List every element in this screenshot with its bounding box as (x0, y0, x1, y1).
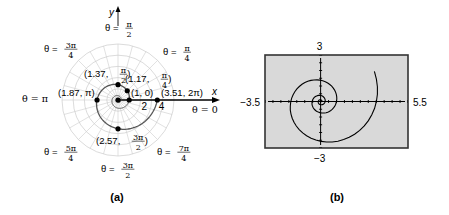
r-tick-label: 4 (159, 101, 165, 112)
data-point (127, 97, 132, 102)
point-label-prefix: (2.57, (96, 135, 120, 146)
x-axis-arrow (212, 97, 220, 103)
r-tick-label: 2 (141, 101, 147, 112)
angle-label-denominator: 4 (185, 54, 190, 63)
angle-label-prefix: θ = (44, 146, 58, 157)
data-point (94, 97, 99, 102)
angle-label: θ = 5π4 (44, 144, 77, 163)
angle-label: θ = 7π4 (157, 144, 190, 163)
angle-label: θ = 3π2 (101, 161, 134, 180)
angle-label-prefix: θ = (163, 46, 177, 57)
polar-grid-ray (70, 100, 118, 128)
caption-a: (a) (110, 191, 124, 203)
data-point (115, 126, 120, 131)
origin-point (115, 97, 120, 102)
point-label-suffix: ) (145, 135, 148, 146)
data-point (125, 88, 130, 93)
point-label: (1.87, π) (58, 87, 95, 98)
angle-label-numerator: π (185, 44, 190, 53)
y-axis-label: y (108, 7, 115, 18)
angle-label: θ = π2 (105, 20, 133, 39)
angle-label-prefix: θ = (105, 22, 119, 33)
angle-label: θ = π4 (163, 44, 191, 63)
point-label-suffix: ) (127, 68, 130, 79)
xmin-label: −3.5 (240, 97, 260, 108)
point-label-prefix: (1.37, (84, 68, 108, 79)
point-label-numerator: π (121, 66, 126, 75)
point-label: (3.51, 2π) (161, 87, 203, 98)
xmax-label: 5.5 (413, 97, 427, 108)
angle-label-denominator: 4 (68, 154, 73, 163)
polar-graph-panel: xy24(1, 0)(1.17, π4)(1.37, π2)(1.87, π)(… (22, 6, 220, 180)
angle-label-prefix: θ = (101, 163, 115, 174)
ymin-label: −3 (314, 153, 326, 164)
angle-label-numerator: 3π (66, 41, 76, 50)
angle-label-numerator: 7π (179, 144, 189, 153)
point-label-denominator: 2 (136, 143, 141, 152)
calculator-graph-panel: 3−3−3.55.5 (240, 41, 427, 164)
ymax-label: 3 (317, 41, 323, 52)
angle-label-denominator: 2 (125, 171, 130, 180)
point-label-numerator: 3π (133, 133, 143, 142)
angle-label-numerator: 5π (66, 144, 76, 153)
point-label: (1, 0) (131, 87, 153, 98)
point-label-denominator: 2 (121, 76, 126, 85)
y-axis-arrow (116, 6, 121, 12)
figure: xy24(1, 0)(1.17, π4)(1.37, π2)(1.87, π)(… (0, 0, 449, 215)
angle-label-denominator: 4 (181, 154, 186, 163)
angle-label: θ = 0 (192, 104, 218, 115)
angle-label-denominator: 4 (68, 51, 73, 60)
data-point (115, 82, 120, 87)
point-label-numerator: π (162, 71, 167, 80)
angle-label-numerator: 3π (123, 161, 133, 170)
point-label-suffix: ) (168, 73, 171, 84)
angle-label: θ = 3π4 (44, 41, 77, 60)
x-axis-label: x (211, 86, 218, 97)
angle-label: θ = π (22, 93, 48, 104)
data-point (155, 97, 160, 102)
angle-label-numerator: π (127, 20, 132, 29)
caption-b: (b) (330, 191, 344, 203)
angle-label-denominator: 2 (127, 30, 132, 39)
angle-label-prefix: θ = (157, 146, 171, 157)
point-label: (2.57, 3π2) (96, 133, 148, 152)
polar-grid-ray (78, 100, 118, 140)
angle-label-prefix: θ = (44, 43, 58, 54)
